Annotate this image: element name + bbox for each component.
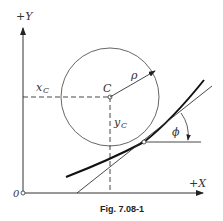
x-axis-label: +X: [189, 177, 207, 190]
yc-label: y C: [113, 116, 127, 130]
origin-label: 0: [13, 188, 20, 199]
svg-text:C: C: [121, 121, 127, 130]
origin-point: [21, 191, 25, 195]
xc-label: x C: [36, 81, 49, 95]
curve-path: [66, 80, 204, 177]
angle-label: ϕ: [172, 126, 180, 139]
svg-text:y: y: [113, 116, 121, 129]
svg-text:C: C: [43, 86, 49, 95]
figure-caption: Fig. 7.08-1: [100, 204, 144, 214]
contact-point: [142, 140, 146, 144]
radius-label: ρ: [130, 69, 138, 82]
center-label: C: [103, 82, 112, 95]
angle-arc: [181, 113, 188, 140]
svg-text:x: x: [36, 81, 43, 94]
curvature-diagram: +Y +X 0 C ρ x C y C ϕ Fig. 7.08-1: [0, 0, 223, 221]
y-axis-label: +Y: [16, 10, 34, 23]
